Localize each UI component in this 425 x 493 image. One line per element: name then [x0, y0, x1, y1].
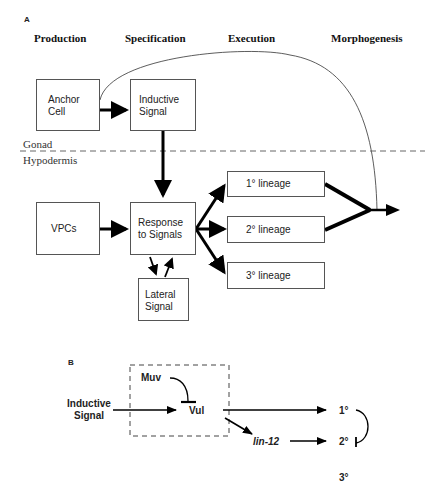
response-box: Response to Signals [130, 202, 196, 255]
fate-2-label: 2° [339, 436, 349, 448]
inductive-line1: Inductive [139, 94, 179, 106]
lineage-3-box: 3° lineage [227, 262, 325, 289]
stage-morphogenesis: Morphogenesis [331, 32, 403, 44]
lineage-1-text: 1° lineage [246, 178, 291, 190]
stage-execution: Execution [228, 32, 275, 44]
lineage-2-text: 2° lineage [246, 224, 291, 236]
stage-specification: Specification [125, 32, 186, 44]
lineage-2-box: 2° lineage [227, 216, 325, 243]
vpcs-box: VPCs [36, 202, 100, 255]
fate-3-label: 3° [339, 472, 349, 484]
lineage-1-box: 1° lineage [227, 171, 325, 197]
panel-b-label: B [68, 357, 74, 369]
hypodermis-label: Hypodermis [23, 154, 77, 166]
muv-label: Muv [141, 372, 161, 384]
inductive-signal-b-line1: Inductive [67, 398, 111, 410]
vpcs-text: VPCs [51, 223, 77, 235]
inductive-signal-box: Inductive Signal [130, 79, 196, 131]
inductive-line2: Signal [139, 106, 167, 118]
anchor-cell-line1: Anchor [48, 94, 80, 106]
inductive-signal-b-line2: Signal [74, 410, 104, 422]
lineage-3-text: 3° lineage [246, 270, 291, 282]
stage-production: Production [34, 32, 86, 44]
anchor-cell-line2: Cell [48, 106, 65, 118]
lateral-line1: Lateral [145, 289, 176, 301]
fate-1-label: 1° [339, 405, 349, 417]
response-line2: to Signals [138, 229, 182, 241]
anchor-cell-box: Anchor Cell [36, 79, 100, 131]
response-line1: Response [138, 217, 183, 229]
panel-a-label: A [24, 14, 30, 26]
gonad-label: Gonad [23, 138, 52, 150]
lateral-signal-box: Lateral Signal [138, 278, 189, 321]
vul-label: Vul [189, 405, 204, 417]
lateral-line2: Signal [145, 301, 173, 313]
lin12-label: lin-12 [253, 436, 279, 448]
